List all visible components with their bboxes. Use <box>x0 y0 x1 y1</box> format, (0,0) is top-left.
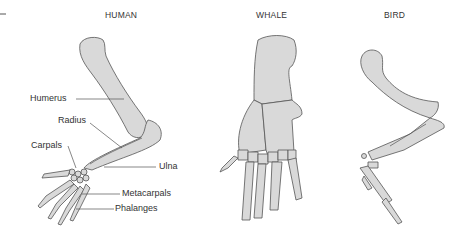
label-ulna: Ulna <box>159 161 178 171</box>
whale-flipper <box>220 36 302 221</box>
panel-title-human: HUMAN <box>105 10 137 20</box>
panel-title-whale: WHALE <box>256 10 287 20</box>
panel-title-bird: BIRD <box>384 10 405 20</box>
label-humerus: Humerus <box>30 93 67 103</box>
label-radius: Radius <box>58 115 86 125</box>
label-metacarpals: Metacarpals <box>122 188 171 198</box>
homologous-limbs-diagram: HUMAN WHALE BIRD Humerus Radius Carpals … <box>0 0 462 235</box>
bird-wing <box>360 50 444 224</box>
label-phalanges: Phalanges <box>115 203 158 213</box>
label-carpals: Carpals <box>31 140 62 150</box>
